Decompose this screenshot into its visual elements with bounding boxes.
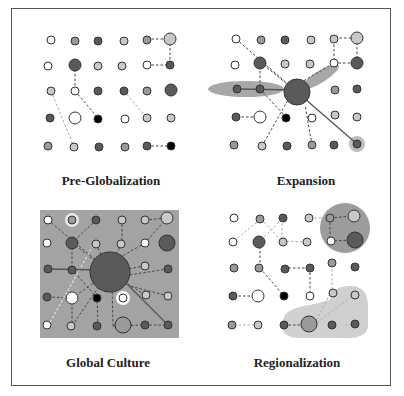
- panel-title-regionalization: Regionalization: [217, 355, 377, 371]
- panel-pre-globalization: [44, 33, 177, 151]
- panel-title-expansion: Expansion: [226, 173, 386, 189]
- panel-title-global-culture: Global Culture: [28, 355, 188, 371]
- panel-title-pre-globalization: Pre-Globalization: [31, 173, 191, 189]
- panel-global-culture: [40, 210, 179, 338]
- panel-regionalization: [228, 203, 370, 338]
- panel-expansion: [208, 32, 365, 152]
- diagram-canvas: .w{fill:#fff;stroke:#333;stroke-width:1}…: [0, 0, 404, 396]
